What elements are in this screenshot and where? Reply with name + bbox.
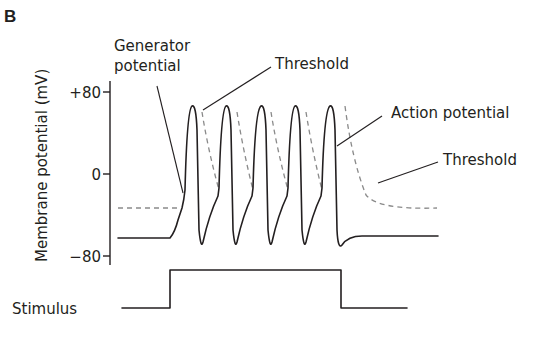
y-axis: +80 0 −80: [69, 81, 110, 266]
threshold-right-label: Threshold: [442, 151, 517, 169]
y-axis-label: Membrane potential (mV): [33, 69, 51, 262]
action-potential-leader: [337, 116, 382, 146]
stimulus-label: Stimulus: [12, 300, 77, 318]
neuron-firing-diagram: B Membrane potential (mV) +80 0 −80 Stim…: [0, 0, 556, 342]
generator-potential-label-line1: Generator: [114, 37, 191, 55]
panel-label: B: [4, 7, 16, 26]
action-potential-label: Action potential: [391, 104, 509, 122]
threshold-top-leader: [203, 67, 271, 110]
generator-potential-label-line2: potential: [114, 57, 181, 75]
tick-0: 0: [91, 166, 101, 184]
threshold-right-leader: [378, 162, 438, 183]
tick-plus80: +80: [69, 84, 101, 102]
threshold-top-label: Threshold: [274, 55, 349, 73]
stimulus-trace: [122, 270, 407, 308]
generator-potential-leader: [157, 86, 183, 193]
tick-minus80: −80: [69, 248, 101, 266]
membrane-potential-trace: [118, 106, 438, 246]
